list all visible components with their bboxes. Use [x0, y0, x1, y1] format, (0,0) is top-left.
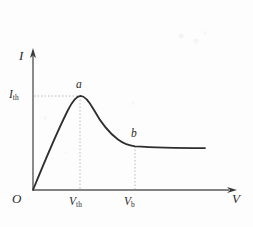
- x-tick-2-base: V: [124, 195, 131, 207]
- iv-curve: [33, 96, 205, 190]
- origin-label: O: [12, 192, 21, 205]
- valley-point-label: b: [131, 128, 137, 140]
- x-tick-2-subscript: b: [131, 200, 135, 209]
- peak-point-label: a: [76, 79, 82, 91]
- x-tick-1-base: V: [69, 195, 76, 207]
- x-tick-1-subscript: th: [76, 200, 82, 209]
- y-axis-label: I: [19, 49, 23, 62]
- x-tick-label-vb: Vb: [124, 196, 135, 208]
- y-tick-subscript: th: [13, 93, 19, 102]
- x-tick-label-vth: Vth: [69, 196, 82, 208]
- x-axis-label: V: [232, 192, 240, 205]
- iv-characteristic-figure: [0, 0, 253, 227]
- y-tick-label-ith: Ith: [9, 89, 19, 101]
